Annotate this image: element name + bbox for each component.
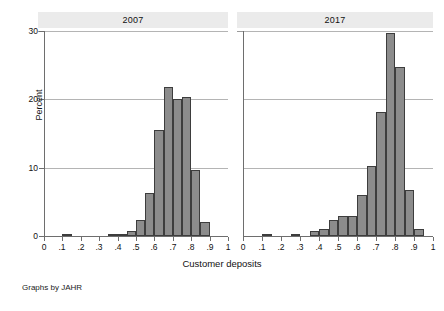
gridline-y-20: [44, 99, 228, 100]
gridline-y-30: [243, 31, 433, 32]
x-tick-mark-p0-5: [136, 237, 137, 241]
histogram-bar: [127, 231, 136, 236]
x-tick-label-p1-7: .7: [369, 242, 383, 252]
y-tick-mark-30: [39, 31, 44, 32]
histogram-bar: [191, 170, 200, 236]
x-tick-label-p0-1: .1: [55, 242, 69, 252]
x-tick-label-p0-6: .6: [147, 242, 161, 252]
y-tick-label-10: 10: [22, 163, 38, 173]
histogram-bar: [200, 222, 209, 236]
x-tick-mark-p0-8: [191, 237, 192, 241]
x-tick-mark-p1-2: [281, 237, 282, 241]
x-tick-label-p1-1: .1: [255, 242, 269, 252]
histogram-bar: [310, 231, 320, 236]
histogram-bar: [291, 234, 301, 236]
histogram-bar: [136, 220, 145, 236]
x-tick-label-p1-6: .6: [350, 242, 364, 252]
histogram-bar: [386, 33, 396, 236]
x-tick-mark-p1-7: [376, 237, 377, 241]
x-tick-mark-p0-3: [99, 237, 100, 241]
histogram-bar: [145, 193, 154, 236]
x-tick-label-p0-10: 1: [221, 242, 235, 252]
histogram-bar: [108, 234, 117, 236]
x-tick-mark-p1-5: [338, 237, 339, 241]
y-axis-title: Percent: [34, 65, 44, 145]
x-tick-label-p1-5: .5: [331, 242, 345, 252]
x-tick-mark-p0-0: [44, 237, 45, 241]
x-tick-mark-p0-6: [154, 237, 155, 241]
x-tick-mark-p0-9: [210, 237, 211, 241]
x-tick-mark-p0-4: [118, 237, 119, 241]
x-tick-mark-p1-0: [243, 237, 244, 241]
x-tick-label-p0-8: .8: [184, 242, 198, 252]
histogram-bar: [395, 67, 405, 236]
x-tick-label-p1-9: .9: [407, 242, 421, 252]
x-axis-title: Customer deposits: [0, 258, 444, 269]
panel-title-label: 2007: [123, 15, 144, 25]
x-tick-label-p1-8: .8: [388, 242, 402, 252]
gridline-y-10: [44, 168, 228, 169]
y-tick-label-0: 0: [22, 231, 38, 241]
y-axis-line-2017: [243, 31, 244, 237]
x-tick-label-p1-2: .2: [274, 242, 288, 252]
x-tick-mark-p1-8: [395, 237, 396, 241]
histogram-bar: [357, 195, 367, 236]
histogram-bar: [262, 234, 272, 236]
histogram-bar: [173, 99, 182, 236]
x-tick-label-p0-3: .3: [92, 242, 106, 252]
x-tick-mark-p0-1: [62, 237, 63, 241]
x-tick-label-p0-9: .9: [203, 242, 217, 252]
y-tick-mark-10: [39, 168, 44, 169]
gridline-y-10: [243, 168, 433, 169]
histogram-bar: [414, 229, 424, 236]
x-tick-mark-p1-4: [319, 237, 320, 241]
panel-title-2017: 2017: [237, 12, 433, 28]
x-tick-label-p0-0: 0: [37, 242, 51, 252]
histogram-bar: [367, 166, 377, 236]
x-tick-mark-p0-2: [81, 237, 82, 241]
panel-title-label: 2017: [325, 15, 346, 25]
y-tick-label-30: 30: [22, 26, 38, 36]
gridline-y-20: [243, 99, 433, 100]
x-tick-mark-p1-6: [357, 237, 358, 241]
x-tick-label-p1-10: 1: [426, 242, 440, 252]
histogram-bar: [164, 87, 173, 236]
x-tick-label-p1-4: .4: [312, 242, 326, 252]
x-tick-mark-p0-10: [228, 237, 229, 241]
y-axis-line-2007: [44, 31, 45, 237]
histogram-bar: [118, 234, 127, 236]
histogram-bar: [338, 216, 348, 237]
x-tick-label-p1-0: 0: [236, 242, 250, 252]
x-tick-label-p0-4: .4: [111, 242, 125, 252]
x-tick-mark-p1-10: [433, 237, 434, 241]
panel-title-2007: 2007: [38, 12, 228, 28]
histogram-bar: [62, 234, 71, 236]
histogram-bar: [376, 112, 386, 236]
histogram-bar: [319, 229, 329, 236]
gridline-y-30: [44, 31, 228, 32]
x-tick-mark-p1-9: [414, 237, 415, 241]
x-tick-label-p0-7: .7: [166, 242, 180, 252]
x-tick-label-p1-3: .3: [293, 242, 307, 252]
x-tick-mark-p1-1: [262, 237, 263, 241]
histogram-bar: [154, 130, 163, 236]
x-tick-mark-p1-3: [300, 237, 301, 241]
x-tick-label-p0-5: .5: [129, 242, 143, 252]
x-tick-label-p0-2: .2: [74, 242, 88, 252]
histogram-bar: [348, 216, 358, 237]
histogram-bar: [405, 190, 415, 236]
histogram-figure: 2007 2017 0102030 Percent 0.1.2.3.4.5.6.…: [0, 0, 444, 311]
figure-note: Graphs by JAHR: [22, 283, 82, 292]
histogram-bar: [329, 220, 339, 236]
histogram-bar: [182, 97, 191, 236]
x-tick-mark-p0-7: [173, 237, 174, 241]
